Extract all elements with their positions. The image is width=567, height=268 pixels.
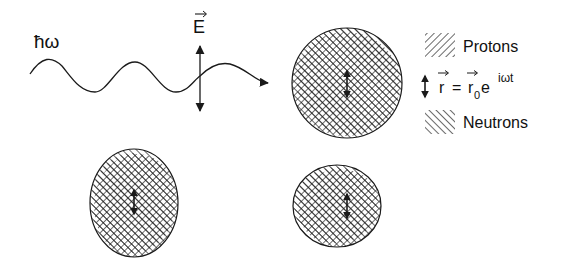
exponential-base: e [481,79,490,96]
legend: Protons r = r 0 e iωt Neutrons [425,33,528,134]
subscript-zero: 0 [474,89,480,101]
nucleus-spherical [292,27,404,140]
field-label: E [193,17,205,37]
nucleus-oblate [290,162,384,250]
displacement-symbol: r [439,79,445,96]
exponent-label: iωt [498,71,514,85]
photon-energy-label: ħω [34,31,60,52]
nucleus-prolate [88,148,180,260]
proton-hatch-swatch-icon [425,33,455,57]
electric-field-vector: E [193,11,207,111]
vector-arrow-icon [438,71,449,76]
legend-neutrons: Neutrons [425,110,528,134]
legend-oscillation: r = r 0 e iωt [425,71,514,102]
equals-sign: = [452,79,461,96]
giant-dipole-resonance-diagram: ħω E [0,0,567,268]
photon-wave: ħω [30,31,268,92]
protons-label: Protons [463,38,518,55]
vector-arrow-icon [467,71,478,76]
neutron-hatch-swatch-icon [425,110,455,134]
neutrons-label: Neutrons [463,114,528,131]
legend-protons: Protons [425,33,518,57]
wave-path [30,59,268,92]
